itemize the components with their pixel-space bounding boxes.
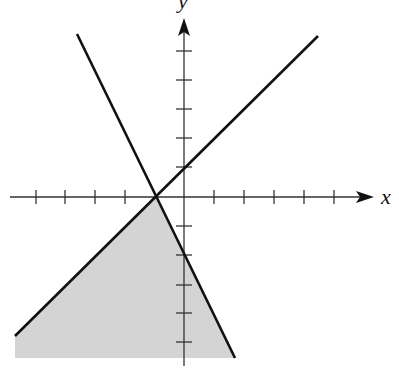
y-axis-label: y (176, 0, 188, 13)
inequality-graph: x y (0, 0, 399, 371)
x-axis-label: x (380, 184, 391, 209)
shaded-region (15, 197, 235, 358)
